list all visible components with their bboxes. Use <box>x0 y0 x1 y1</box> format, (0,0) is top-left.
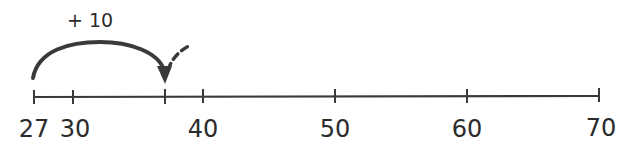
jump-arc <box>33 42 164 78</box>
tick-label-60: 60 <box>452 115 483 143</box>
jump-label: + 10 <box>67 9 113 31</box>
tick-label-50: 50 <box>320 115 351 143</box>
tick-label-40: 40 <box>188 115 219 143</box>
number-line <box>34 96 599 97</box>
tick-label-27: 27 <box>19 115 50 143</box>
number-line-diagram: 27 30 40 50 60 70 + 10 <box>0 0 632 150</box>
tick-label-30: 30 <box>60 115 91 143</box>
tick-label-70: 70 <box>586 114 617 142</box>
